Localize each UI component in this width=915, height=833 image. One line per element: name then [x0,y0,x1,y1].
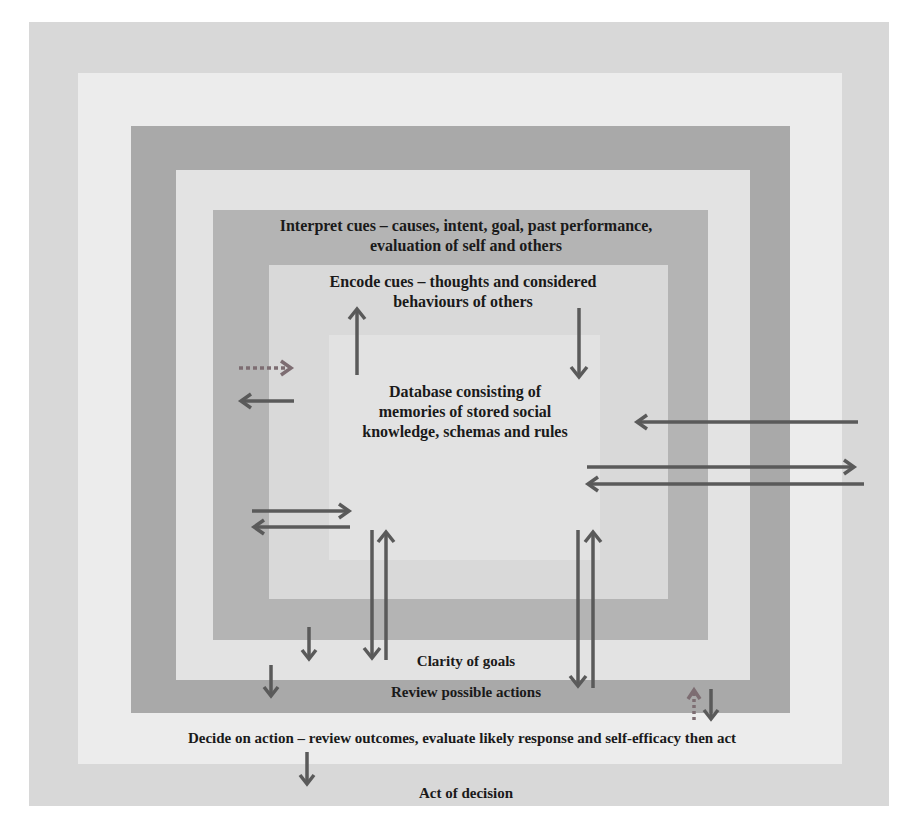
dotted-arrow-up-bottom-right-icon [688,690,700,720]
arrow-down-left-vertical-icon [364,530,380,658]
arrow-down-to-clarity-icon [302,627,316,659]
dotted-arrow-right-left-side-icon [239,361,291,375]
arrow-right-right-side-icon [587,460,854,474]
arrow-up-left-vertical-icon [378,532,394,660]
social-information-processing-diagram: Interpret cues – causes, intent, goal, p… [0,0,915,833]
arrow-up-database-to-encode-icon [349,309,365,375]
arrow-down-right-vertical-icon [570,530,586,686]
arrow-right-lower-left-icon [252,504,349,518]
arrow-left-lower-left-icon [254,520,350,534]
arrow-down-encode-to-database-icon [571,308,587,377]
arrow-down-to-act-icon [300,752,314,784]
arrow-down-bottom-right-icon [704,689,718,719]
arrows-layer [0,0,915,833]
arrow-down-to-review-icon [264,665,278,696]
arrow-left-upper-left-side-icon [241,394,294,408]
arrow-up-right-vertical-icon [585,532,601,688]
arrow-left-right-side-upper-icon [637,415,858,429]
arrow-left-right-side-lower-icon [588,477,864,491]
